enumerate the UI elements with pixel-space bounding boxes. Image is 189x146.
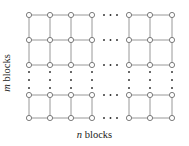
horizontal-ellipsis-dot — [116, 64, 118, 66]
grid-vertex-node — [147, 12, 152, 17]
rows-label-text: blocks — [1, 54, 12, 84]
vertical-ellipsis-dot — [28, 71, 30, 73]
horizontal-ellipsis-dot — [116, 14, 118, 16]
vertical-ellipsis-dot — [171, 87, 173, 89]
grid-vertex-node — [89, 92, 94, 97]
horizontal-ellipsis-dot — [116, 117, 118, 119]
vertical-ellipsis-dot — [128, 87, 130, 89]
horizontal-ellipsis-dot — [116, 39, 118, 41]
grid-vertex-node — [126, 92, 131, 97]
vertical-ellipsis-dot — [49, 71, 51, 73]
vertical-ellipsis-dot — [28, 79, 30, 81]
grid-vertex-node — [26, 62, 31, 67]
grid-vertex-node — [68, 115, 73, 120]
grid-vertex-node — [68, 92, 73, 97]
grid-diagram-figure: m blocks n blocks — [0, 0, 189, 146]
horizontal-ellipsis-dot — [103, 117, 105, 119]
vertical-ellipsis-dot — [91, 87, 93, 89]
vertical-ellipsis-dot — [28, 87, 30, 89]
grid-vertex-node — [89, 12, 94, 17]
grid-vertex-node — [89, 37, 94, 42]
grid-vertex-node — [47, 115, 52, 120]
grid-vertex-node — [26, 92, 31, 97]
horizontal-ellipsis-dot — [110, 14, 112, 16]
vertical-ellipsis-dot — [128, 71, 130, 73]
columns-label-text: blocks — [82, 129, 112, 140]
horizontal-ellipsis-dot — [110, 64, 112, 66]
grid-vertex-node — [126, 62, 131, 67]
vertical-ellipsis-dot — [149, 87, 151, 89]
grid-vertex-node — [68, 37, 73, 42]
vertical-ellipsis-dot — [149, 71, 151, 73]
grid-vertex-node — [169, 115, 174, 120]
horizontal-ellipsis-dot — [103, 39, 105, 41]
vertical-ellipsis-dot — [91, 71, 93, 73]
horizontal-ellipsis-dot — [103, 14, 105, 16]
grid-vertex-node — [126, 12, 131, 17]
grid-vertex-node — [26, 12, 31, 17]
horizontal-ellipsis-dot — [116, 94, 118, 96]
grid-vertex-node — [126, 37, 131, 42]
vertical-ellipsis-dot — [91, 79, 93, 81]
grid-vertex-node — [26, 115, 31, 120]
horizontal-ellipsis-dot — [110, 94, 112, 96]
horizontal-ellipsis-dot — [103, 64, 105, 66]
grid-vertex-node — [147, 62, 152, 67]
grid-vertex-node — [169, 37, 174, 42]
horizontal-ellipsis-dot — [110, 117, 112, 119]
grid-vertex-node — [68, 62, 73, 67]
vertical-ellipsis-dot — [70, 71, 72, 73]
grid-vertex-node — [89, 115, 94, 120]
grid-vertex-node — [147, 115, 152, 120]
grid-vertex-node — [147, 37, 152, 42]
horizontal-ellipsis-dot — [103, 94, 105, 96]
vertical-ellipsis-dot — [70, 79, 72, 81]
grid-vertex-node — [26, 37, 31, 42]
vertical-ellipsis-dot — [128, 79, 130, 81]
rows-axis-label: m blocks — [2, 0, 16, 146]
vertical-ellipsis-dot — [49, 79, 51, 81]
vertical-ellipsis-dot — [171, 71, 173, 73]
grid-vertex-node — [169, 62, 174, 67]
columns-axis-label: n blocks — [0, 130, 189, 141]
vertical-ellipsis-dot — [171, 79, 173, 81]
rows-symbol: m — [1, 84, 12, 92]
grid-vertex-node — [147, 92, 152, 97]
horizontal-ellipsis-dot — [110, 39, 112, 41]
grid-vertex-node — [169, 92, 174, 97]
vertical-ellipsis-dot — [49, 87, 51, 89]
grid-vertex-node — [47, 12, 52, 17]
grid-vertex-node — [47, 37, 52, 42]
grid-vertex-node — [89, 62, 94, 67]
grid-vertex-node — [47, 62, 52, 67]
grid-lattice-svg — [0, 0, 189, 146]
grid-vertex-node — [169, 12, 174, 17]
vertical-ellipsis-dot — [70, 87, 72, 89]
grid-vertex-node — [68, 12, 73, 17]
grid-vertex-node — [126, 115, 131, 120]
vertical-ellipsis-dot — [149, 79, 151, 81]
grid-vertex-node — [47, 92, 52, 97]
